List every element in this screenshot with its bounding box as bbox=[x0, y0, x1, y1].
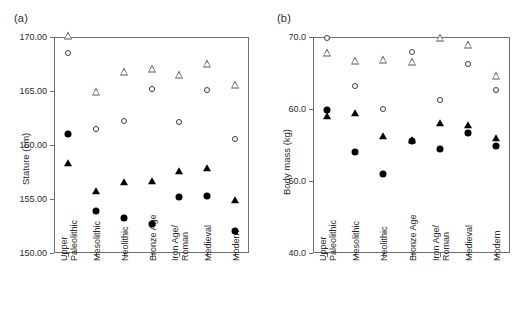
data-point-filled-circle bbox=[436, 146, 443, 153]
data-point-filled-circle bbox=[176, 193, 183, 200]
y-axis-tick-label: 50.0 bbox=[261, 176, 306, 186]
data-point-open-triangle bbox=[464, 41, 472, 49]
data-point-open-triangle bbox=[492, 71, 500, 79]
data-point-filled-triangle bbox=[436, 120, 444, 127]
data-point-filled-circle bbox=[148, 220, 155, 227]
y-axis-tick-mark bbox=[50, 199, 54, 200]
data-point-open-triangle bbox=[231, 80, 239, 88]
data-point-filled-circle bbox=[232, 228, 239, 235]
data-point-open-triangle bbox=[64, 32, 72, 40]
data-point-filled-triangle bbox=[92, 188, 100, 195]
data-point-filled-circle bbox=[352, 149, 359, 156]
x-axis-tick-label: Medieval bbox=[203, 225, 213, 261]
y-axis-tick-mark bbox=[50, 91, 54, 92]
y-axis-tick-label: 160.00 bbox=[2, 140, 47, 150]
x-axis-tick-label: Neolithic bbox=[120, 226, 130, 261]
panel-a-label: (a) bbox=[14, 12, 28, 24]
data-point-filled-circle bbox=[204, 192, 211, 199]
data-point-filled-triangle bbox=[379, 133, 387, 140]
y-axis-tick-mark bbox=[50, 145, 54, 146]
x-axis-tick-label: Medieval bbox=[464, 225, 474, 261]
y-axis-tick-label: 155.00 bbox=[2, 194, 47, 204]
y-axis-tick-label: 70.0 bbox=[261, 32, 306, 42]
data-point-open-circle bbox=[324, 35, 330, 41]
y-axis-tick-label: 170.00 bbox=[2, 32, 47, 42]
data-point-open-circle bbox=[176, 119, 182, 125]
data-point-open-circle bbox=[465, 61, 471, 67]
data-point-filled-circle bbox=[64, 131, 71, 138]
panel-b: (b) Body mass (kg) 40.050.060.070.0Upper… bbox=[263, 0, 526, 326]
data-point-open-circle bbox=[409, 49, 415, 55]
data-point-open-triangle bbox=[148, 65, 156, 73]
data-point-filled-triangle bbox=[492, 134, 500, 141]
data-point-filled-triangle bbox=[175, 167, 183, 174]
y-axis-tick-mark bbox=[50, 253, 54, 254]
x-axis-tick-label: Upper Paleolithic bbox=[59, 220, 79, 261]
data-point-filled-circle bbox=[380, 170, 387, 177]
y-axis-tick-label: 165.00 bbox=[2, 86, 47, 96]
x-axis-tick-label: Iron Age/ Roman bbox=[170, 225, 190, 261]
data-point-filled-circle bbox=[324, 107, 331, 114]
data-point-filled-circle bbox=[408, 138, 415, 145]
x-axis-tick-label: Neolithic bbox=[379, 226, 389, 261]
data-point-open-triangle bbox=[175, 70, 183, 78]
data-point-filled-triangle bbox=[231, 196, 239, 203]
x-axis-tick-label: Upper Paleolithic bbox=[318, 220, 338, 261]
data-point-open-circle bbox=[149, 86, 155, 92]
data-point-filled-triangle bbox=[148, 177, 156, 184]
y-axis-tick-label: 40.0 bbox=[261, 248, 306, 258]
y-axis-tick-mark bbox=[309, 109, 313, 110]
y-axis-tick-mark bbox=[309, 37, 313, 38]
data-point-open-triangle bbox=[351, 57, 359, 65]
data-point-open-triangle bbox=[92, 88, 100, 96]
y-axis-tick-mark bbox=[309, 181, 313, 182]
panel-a: (a) Stature (cm) 150.00155.00160.00165.0… bbox=[0, 0, 263, 326]
data-point-open-circle bbox=[65, 50, 71, 56]
data-point-open-triangle bbox=[379, 56, 387, 64]
data-point-open-triangle bbox=[203, 60, 211, 68]
data-point-open-circle bbox=[352, 83, 358, 89]
data-point-filled-triangle bbox=[464, 121, 472, 128]
data-point-open-circle bbox=[493, 87, 499, 93]
y-axis-tick-mark bbox=[50, 37, 54, 38]
y-axis-tick-label: 150.00 bbox=[2, 248, 47, 258]
panel-b-label: (b) bbox=[277, 12, 291, 24]
data-point-open-circle bbox=[204, 87, 210, 93]
data-point-open-circle bbox=[93, 126, 99, 132]
data-point-filled-triangle bbox=[64, 160, 72, 167]
y-axis-tick-mark bbox=[309, 253, 313, 254]
x-axis-tick-label: Iron Age/ Roman bbox=[431, 225, 451, 261]
data-point-filled-triangle bbox=[351, 109, 359, 116]
data-point-filled-circle bbox=[492, 142, 499, 149]
y-axis-tick-label: 60.0 bbox=[261, 104, 306, 114]
data-point-filled-triangle bbox=[203, 164, 211, 171]
data-point-open-triangle bbox=[120, 67, 128, 75]
x-axis-tick-label: Mesolithic bbox=[92, 221, 102, 261]
data-point-open-circle bbox=[232, 136, 238, 142]
data-point-filled-triangle bbox=[120, 178, 128, 185]
x-axis-tick-label: Modern bbox=[231, 230, 241, 261]
data-point-open-circle bbox=[380, 106, 386, 112]
data-point-open-circle bbox=[121, 118, 127, 124]
x-axis-tick-label: Mesolithic bbox=[351, 221, 361, 261]
data-point-open-circle bbox=[437, 97, 443, 103]
figure-container: (a) Stature (cm) 150.00155.00160.00165.0… bbox=[0, 0, 526, 326]
data-point-open-triangle bbox=[323, 48, 331, 56]
data-point-open-triangle bbox=[408, 58, 416, 66]
x-axis-tick-label: Modern bbox=[492, 230, 502, 261]
data-point-filled-circle bbox=[120, 215, 127, 222]
x-axis-tick-label: Bronze Age bbox=[408, 214, 418, 261]
data-point-open-triangle bbox=[436, 34, 444, 42]
data-point-filled-circle bbox=[464, 130, 471, 137]
data-point-filled-circle bbox=[92, 207, 99, 214]
